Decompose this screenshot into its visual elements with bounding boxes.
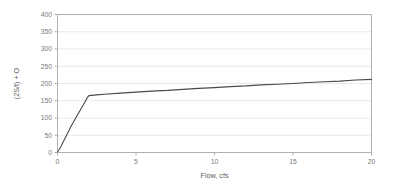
y-tick-label: 250	[41, 63, 53, 70]
x-tick-label: 0	[56, 158, 60, 165]
x-axis-title: Flow, cfs	[201, 171, 229, 180]
grid-lines	[58, 15, 372, 136]
y-tick-label: 350	[41, 28, 53, 35]
y-tick-label: 400	[41, 11, 53, 18]
chart-container: 050100150200250300350400 05101520 Flow, …	[0, 0, 394, 188]
x-tick-label: 5	[134, 158, 138, 165]
y-axis-title: (2S/t) + O	[12, 67, 21, 99]
y-tick-label: 100	[41, 114, 53, 121]
y-tick-label: 300	[41, 45, 53, 52]
x-tick-label: 20	[368, 158, 376, 165]
x-tick-label: 10	[211, 158, 219, 165]
y-tick-label: 50	[44, 132, 52, 139]
data-series-group	[58, 79, 372, 151]
line-chart: 050100150200250300350400 05101520 Flow, …	[0, 0, 394, 188]
y-tick-label: 150	[41, 97, 53, 104]
y-tick-label: 0	[48, 149, 52, 156]
y-tick-label: 200	[41, 80, 53, 87]
series-line	[58, 79, 372, 151]
y-axis-tick-labels: 050100150200250300350400	[41, 11, 53, 156]
x-tick-label: 15	[289, 158, 297, 165]
x-axis-tick-labels: 05101520	[56, 158, 376, 165]
